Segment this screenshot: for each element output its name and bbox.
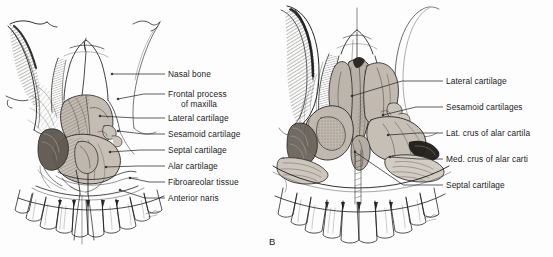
panel-b-label-septal-cartilage: Septal cartilage xyxy=(446,180,505,190)
panel-b-label-med-crus-alar-text: Med. crus of alar carti xyxy=(446,154,528,164)
panel-b-labels: Lateral cartilageSesamoid cartilagesLat.… xyxy=(0,0,553,257)
panel-b-label-lat-crus-alar-text: Lat. crus of alar cartila xyxy=(446,128,530,138)
panel-b-label-lateral-cartilage: Lateral cartilage xyxy=(446,76,507,86)
panel-b-label-lat-crus-alar: Lat. crus of alar cartila xyxy=(446,128,530,138)
panel-b-label-septal-cartilage-text: Septal cartilage xyxy=(446,180,505,190)
anatomical-figure: Nasal boneFrontal processof maxillaLater… xyxy=(0,0,553,257)
panel-b-label-sesamoid-cartilages-text: Sesamoid cartilages xyxy=(446,102,523,112)
panel-b-label-sesamoid-cartilages: Sesamoid cartilages xyxy=(446,102,523,112)
panel-b-label-med-crus-alar: Med. crus of alar carti xyxy=(446,154,528,164)
panel-b-label-lateral-cartilage-text: Lateral cartilage xyxy=(446,76,507,86)
panel-letter-b: B xyxy=(269,236,275,247)
